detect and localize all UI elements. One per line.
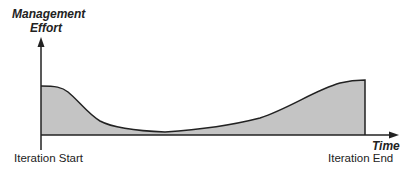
effort-area	[41, 80, 365, 135]
iteration-end-label: Iteration End	[328, 152, 393, 164]
y-axis-arrow-icon	[38, 37, 45, 47]
x-axis-arrow-icon	[389, 132, 399, 139]
iteration-start-label: Iteration Start	[14, 152, 83, 164]
y-axis-title: Management Effort	[12, 7, 80, 35]
y-axis-title-line1: Management	[12, 7, 80, 21]
y-axis-title-line2: Effort	[12, 21, 80, 35]
x-axis-title: Time	[372, 139, 400, 153]
